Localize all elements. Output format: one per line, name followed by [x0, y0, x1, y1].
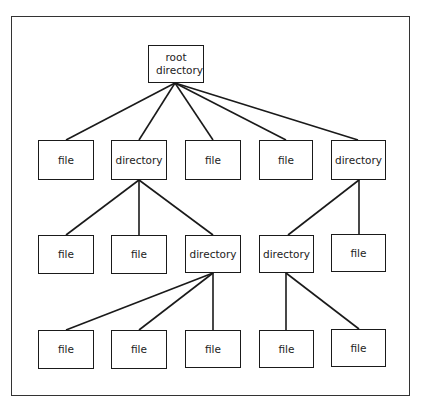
node-label: file — [131, 343, 147, 356]
file-node-r1d: file — [259, 140, 313, 180]
edge-r2c-r3b — [139, 273, 213, 330]
file-node-r3a: file — [38, 330, 94, 369]
directory-node-r1b: directory — [111, 140, 167, 180]
edge-root-r1d — [175, 83, 286, 140]
node-label: file — [58, 154, 74, 167]
file-node-r3b: file — [111, 330, 167, 369]
file-node-r2a: file — [38, 235, 94, 274]
file-node-r1c: file — [185, 140, 241, 180]
directory-node-r2c: directory — [185, 235, 241, 273]
node-label: file — [205, 343, 221, 356]
edge-r2d-r3e — [286, 273, 359, 329]
file-node-r3e: file — [331, 329, 386, 367]
directory-node-r1e: directory — [331, 140, 386, 180]
node-label: file — [351, 342, 367, 355]
file-node-r1a: file — [38, 140, 94, 180]
edge-r1e-r2d — [288, 180, 359, 235]
file-node-r2b: file — [111, 235, 167, 274]
edge-root-r1a — [66, 83, 175, 140]
node-label: file — [58, 343, 74, 356]
node-label: directory — [263, 248, 310, 261]
edge-r1b-r2a — [66, 180, 139, 235]
node-label: directory — [335, 154, 382, 167]
directory-node-root: root directory — [148, 45, 204, 83]
node-label: root directory — [156, 51, 196, 77]
edge-r2c-r3a — [66, 273, 213, 330]
file-node-r3c: file — [185, 330, 241, 368]
edge-r1b-r2c — [139, 180, 213, 235]
node-label: file — [131, 248, 147, 261]
node-label: directory — [116, 154, 163, 167]
node-label: file — [205, 154, 221, 167]
node-label: file — [58, 248, 74, 261]
directory-node-r2d: directory — [259, 235, 314, 273]
node-label: file — [279, 343, 295, 356]
node-label: file — [351, 247, 367, 260]
node-label: directory — [190, 248, 237, 261]
file-node-r2e: file — [331, 234, 386, 272]
edge-root-r1e — [175, 83, 358, 140]
file-node-r3d: file — [259, 330, 314, 368]
edge-root-r1c — [175, 83, 213, 140]
node-label: file — [278, 154, 294, 167]
